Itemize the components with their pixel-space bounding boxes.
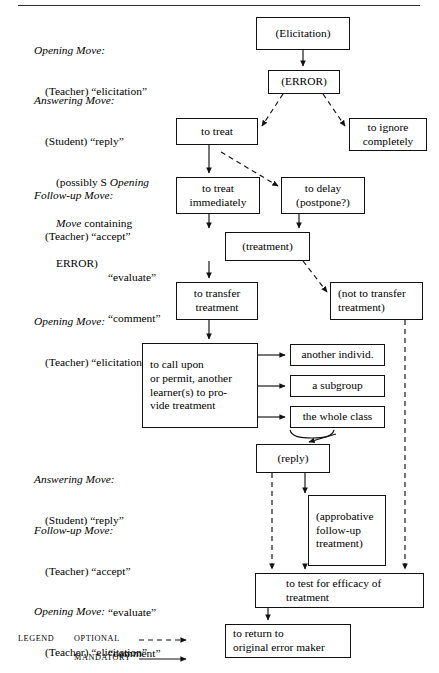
annotation-line: (Teacher) “accept”: [34, 230, 161, 244]
node-treat-immediately[interactable]: to treat immediately: [176, 177, 260, 214]
node-label-line2: treatment: [286, 591, 381, 605]
edge-error-toignore: [323, 94, 345, 126]
node-label-line2: original error maker: [233, 641, 325, 655]
node-label-line2: treatment): [338, 301, 406, 315]
node-not-to-transfer-treatment[interactable]: (not to transfer treatment): [330, 282, 423, 320]
node-label-line2: treatment: [194, 301, 241, 315]
node-label-line3: treatment): [316, 537, 374, 551]
node-label-line3: learner(s) to pro-: [150, 386, 232, 400]
node-label-line1: to delay: [296, 182, 350, 196]
node-reply[interactable]: (reply): [256, 444, 330, 473]
edge-error-totreat: [262, 94, 283, 126]
annotation-heading: Opening Move:: [34, 315, 147, 329]
node-error[interactable]: (ERROR): [268, 70, 340, 94]
node-label-line1: (approbative: [316, 510, 374, 524]
node-label-line2: (postpone?): [296, 196, 350, 210]
top-rule: [18, 5, 420, 6]
node-label-line1: to ignore: [363, 121, 414, 135]
annotation-line: (Teacher) “elicitation”: [34, 356, 147, 370]
legend-label-optional: OPTIONAL: [74, 634, 120, 643]
annotation-line: “evaluate”: [34, 271, 161, 285]
node-label-line2: or permit, another: [150, 372, 232, 386]
node-label-line1: to return to: [233, 627, 325, 641]
node-to-ignore-completely[interactable]: to ignore completely: [349, 118, 427, 151]
node-label: (reply): [278, 452, 309, 466]
node-treatment[interactable]: (treatment): [225, 232, 310, 261]
node-label-line1: (not to transfer: [338, 287, 406, 301]
node-label-line1: to test for efficacy of: [286, 577, 381, 591]
legend-title: LEGEND: [18, 634, 54, 643]
annotation-heading: Opening Move:: [34, 44, 147, 58]
node-to-treat[interactable]: to treat: [176, 118, 258, 145]
edge-treatment-nottransfer: [303, 261, 327, 292]
node-label: (treatment): [242, 240, 293, 254]
node-label: to treat: [201, 125, 233, 139]
node-label: a subgroup: [312, 379, 362, 393]
node-label: another individ.: [301, 348, 373, 362]
node-to-return-to-original-error-maker[interactable]: to return to original error maker: [225, 624, 351, 658]
node-elicitation[interactable]: (Elicitation): [256, 17, 350, 50]
node-to-call-upon[interactable]: to call upon or permit, another learner(…: [142, 343, 258, 428]
flowchart-canvas: Opening Move: (Teacher) “elicitation” An…: [0, 0, 439, 673]
annotation-heading: Follow-up Move:: [34, 189, 161, 203]
node-label-line1: to call upon: [150, 358, 232, 372]
annotation-heading: Answering Move:: [34, 473, 124, 487]
annotation-heading: Answering Move:: [34, 94, 149, 108]
annotation-heading: Opening Move:: [34, 605, 147, 619]
node-label-line2: immediately: [190, 196, 247, 210]
annotation-opening-move-2: Opening Move: (Teacher) “elicitation”: [34, 288, 147, 397]
annotation-line: (Teacher) “accept”: [34, 565, 161, 579]
node-label: (ERROR): [281, 75, 327, 89]
node-another-individ[interactable]: another individ.: [290, 344, 385, 366]
node-a-subgroup[interactable]: a subgroup: [290, 375, 385, 397]
node-label: (Elicitation): [275, 27, 330, 41]
node-approbative-followup-treatment[interactable]: (approbative follow-up treatment): [308, 495, 386, 566]
node-label-line4: vide treatment: [150, 399, 232, 413]
annotation-line: (Student) “reply”: [34, 135, 149, 149]
edge-wholeclass-reply: [309, 434, 336, 442]
node-label-line1: to treat: [190, 182, 247, 196]
annotation-heading: Follow-up Move:: [34, 524, 161, 538]
legend-label-mandatory: MANDATORY: [74, 653, 131, 662]
node-label-line2: follow-up: [316, 524, 374, 538]
node-to-test-for-efficacy[interactable]: to test for efficacy of treatment: [255, 573, 424, 608]
node-the-whole-class[interactable]: the whole class: [290, 406, 385, 428]
node-to-transfer-treatment[interactable]: to transfer treatment: [176, 282, 258, 320]
brace-options: [290, 430, 334, 438]
node-label: the whole class: [303, 410, 373, 424]
node-label-line2: completely: [363, 135, 414, 149]
node-label-line1: to transfer: [194, 287, 241, 301]
node-to-delay-postpone[interactable]: to delay (postpone?): [281, 177, 365, 214]
